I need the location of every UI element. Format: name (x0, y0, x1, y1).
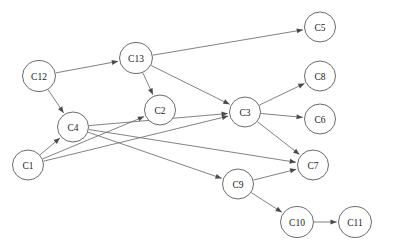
node-label: C1 (22, 161, 33, 171)
node-label: C10 (289, 218, 305, 228)
arrowhead-icon (215, 174, 222, 179)
graph-edge-c3-to-c6 (261, 113, 303, 119)
arrowhead-icon (296, 28, 303, 33)
graph-node-c8[interactable]: C8 (305, 61, 336, 91)
arrowhead-icon (296, 114, 302, 119)
arrowhead-icon (275, 207, 282, 212)
node-label: C6 (314, 115, 325, 125)
arrowhead-icon (223, 99, 230, 104)
graph-node-c6[interactable]: C6 (305, 104, 336, 134)
node-label: C2 (154, 106, 165, 116)
graph-node-c13[interactable]: C13 (120, 43, 153, 74)
graph-node-c1[interactable]: C1 (13, 150, 44, 180)
graph-edge-c12-to-c4 (48, 90, 64, 113)
graph-edge-c9-to-c10 (251, 193, 282, 213)
node-label: C7 (307, 161, 318, 171)
arrowhead-icon (293, 149, 299, 155)
node-label: C9 (232, 180, 243, 190)
graph-node-c3[interactable]: C3 (230, 97, 261, 127)
graph-node-c9[interactable]: C9 (223, 169, 254, 199)
edge-line (261, 113, 303, 117)
edge-line (89, 130, 296, 163)
arrowhead-icon (148, 88, 153, 95)
graph-edge-c10-to-c11 (314, 220, 337, 225)
edge-line (153, 30, 303, 55)
arrowhead-icon (298, 83, 305, 88)
graph-node-c11[interactable]: C11 (339, 207, 372, 238)
node-label: C11 (347, 218, 363, 228)
graph-node-c7[interactable]: C7 (298, 150, 329, 180)
node-label: C5 (314, 23, 325, 33)
node-label: C4 (67, 123, 78, 133)
graph-diagram-canvas: C12C13C5C8C2C3C6C4C1C7C9C10C11 (0, 0, 395, 250)
node-label: C8 (314, 72, 325, 82)
edge-line (257, 122, 299, 155)
graph-node-c2[interactable]: C2 (145, 95, 176, 125)
arrowhead-icon (222, 115, 229, 120)
graph-edge-c3-to-c7 (257, 122, 299, 155)
node-label: C3 (239, 108, 250, 118)
graph-edge-c1-to-c4 (40, 138, 60, 155)
arrowhead-icon (111, 60, 118, 65)
graph-edge-c4-to-c7 (89, 130, 296, 164)
directed-graph-svg: C12C13C5C8C2C3C6C4C1C7C9C10C11 (0, 0, 395, 250)
graph-edge-c3-to-c8 (259, 83, 304, 105)
graph-edge-c4-to-c9 (88, 132, 222, 179)
edge-line (253, 169, 296, 180)
edge-line (88, 132, 222, 178)
graph-edge-c13-to-c2 (143, 73, 153, 95)
graph-node-c5[interactable]: C5 (305, 12, 336, 42)
edge-line (259, 83, 304, 105)
arrowhead-icon (58, 106, 64, 113)
node-label: C13 (128, 54, 144, 64)
graph-node-c10[interactable]: C10 (281, 207, 314, 238)
arrowhead-icon (331, 220, 337, 225)
node-label: C12 (31, 72, 47, 82)
graph-edge-c13-to-c5 (153, 28, 303, 55)
graph-edge-c9-to-c7 (253, 168, 296, 180)
graph-node-c4[interactable]: C4 (58, 112, 89, 142)
arrowhead-icon (289, 159, 296, 164)
edge-line (56, 61, 118, 73)
graph-node-c12[interactable]: C12 (23, 61, 56, 92)
graph-edge-c12-to-c13 (56, 60, 118, 73)
